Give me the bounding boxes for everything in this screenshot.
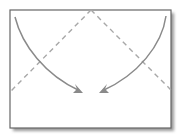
paper-sheet — [10, 10, 171, 128]
origami-diagram — [0, 0, 181, 140]
diagram-canvas — [0, 0, 181, 140]
